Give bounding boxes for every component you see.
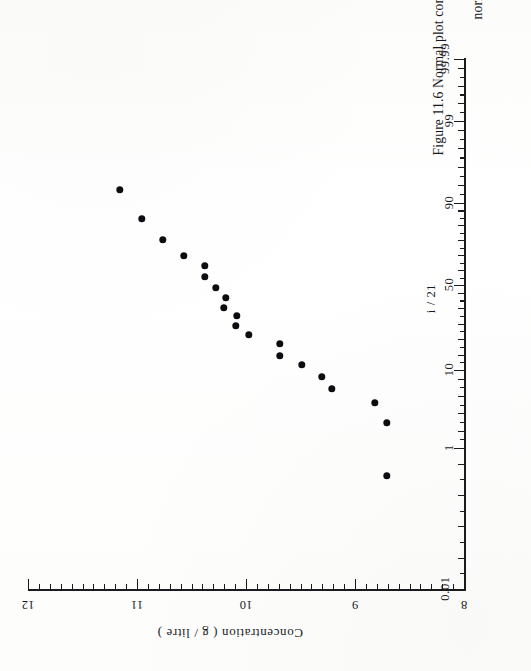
probability-minor-tick (460, 331, 465, 332)
concentration-major-tick (246, 579, 247, 589)
concentration-minor-tick (61, 584, 62, 589)
probability-minor-tick (458, 413, 465, 414)
probability-minor-tick (458, 355, 465, 356)
concentration-minor-tick (268, 584, 269, 589)
probability-tick-label-10: 10 (442, 353, 457, 387)
data-point (116, 186, 123, 193)
concentration-minor-tick (159, 584, 160, 589)
concentration-minor-tick (170, 584, 171, 589)
probability-minor-tick (460, 405, 465, 406)
data-point (159, 236, 166, 243)
concentration-minor-tick (83, 584, 84, 589)
data-point (232, 322, 239, 329)
concentration-minor-tick (311, 584, 312, 589)
data-point (298, 361, 305, 368)
concentration-major-tick (137, 579, 138, 589)
concentration-minor-tick (148, 584, 149, 589)
data-point (222, 294, 229, 301)
concentration-minor-tick (279, 584, 280, 589)
probability-axis-annotation: i / 21 (424, 282, 439, 316)
probability-minor-tick (458, 464, 465, 465)
probability-minor-tick (458, 255, 465, 256)
probability-minor-tick (460, 422, 465, 423)
concentration-minor-tick (192, 584, 193, 589)
concentration-minor-tick (377, 584, 378, 589)
figure-caption: Figure 11.6 Normal plot concentrations (… (429, 0, 471, 160)
concentration-tick-label-12: 12 (19, 597, 37, 612)
data-point (383, 472, 390, 479)
data-point (328, 385, 335, 392)
data-point (276, 352, 283, 359)
probability-minor-tick (460, 479, 465, 480)
data-point (212, 284, 219, 291)
concentration-major-tick (355, 579, 356, 589)
concentration-minor-tick (181, 584, 182, 589)
concentration-minor-tick (399, 584, 400, 589)
probability-minor-tick (458, 185, 465, 186)
concentration-minor-tick (50, 584, 51, 589)
probability-minor-tick (458, 339, 465, 340)
concentration-major-tick (464, 579, 465, 589)
probability-minor-tick (460, 233, 465, 234)
probability-minor-tick (458, 167, 465, 168)
concentration-minor-tick (344, 584, 345, 589)
data-point (233, 312, 240, 319)
probability-minor-tick (460, 263, 465, 264)
concentration-tick-label-8: 8 (455, 597, 473, 612)
probability-tick-label-50: 50 (442, 268, 457, 302)
probability-minor-tick (460, 176, 465, 177)
concentration-minor-tick (213, 584, 214, 589)
concentration-minor-tick (322, 584, 323, 589)
data-point (276, 340, 283, 347)
data-point (245, 331, 252, 338)
concentration-minor-tick (72, 584, 73, 589)
concentration-minor-tick (115, 584, 116, 589)
concentration-axis-line (28, 589, 466, 591)
probability-minor-tick (458, 526, 465, 527)
probability-minor-tick (458, 210, 465, 211)
probability-minor-tick (458, 308, 465, 309)
concentration-minor-tick (420, 584, 421, 589)
probability-major-tick (454, 589, 464, 590)
probability-minor-tick (460, 248, 465, 249)
probability-minor-tick (460, 300, 465, 301)
concentration-axis-title: Concentration ( g / litre ) (90, 625, 370, 641)
data-point (318, 373, 325, 380)
concentration-tick-label-10: 10 (237, 597, 255, 612)
probability-tick-label-1: 1 (442, 431, 457, 465)
concentration-minor-tick (104, 584, 105, 589)
probability-minor-tick (458, 324, 465, 325)
figure-page: 12111098 0.0111050909999.99 i / 21 Conce… (0, 0, 531, 671)
data-point (201, 273, 208, 280)
concentration-minor-tick (126, 584, 127, 589)
probability-minor-tick (460, 573, 465, 574)
probability-minor-tick (460, 439, 465, 440)
concentration-minor-tick (290, 584, 291, 589)
probability-minor-tick (460, 194, 465, 195)
concentration-minor-tick (388, 584, 389, 589)
data-point (220, 304, 227, 311)
concentration-minor-tick (235, 584, 236, 589)
probability-tick-label-90: 90 (442, 186, 457, 220)
probability-minor-tick (460, 316, 465, 317)
concentration-minor-tick (366, 584, 367, 589)
concentration-tick-label-9: 9 (346, 597, 364, 612)
concentration-minor-tick (301, 584, 302, 589)
concentration-minor-tick (333, 584, 334, 589)
concentration-minor-tick (202, 584, 203, 589)
concentration-minor-tick (39, 584, 40, 589)
probability-minor-tick (458, 379, 465, 380)
concentration-tick-label-11: 11 (128, 597, 146, 612)
probability-minor-tick (458, 495, 465, 496)
probability-minor-tick (458, 293, 465, 294)
probability-minor-tick (460, 511, 465, 512)
probability-minor-tick (458, 396, 465, 397)
concentration-major-tick (28, 579, 29, 589)
data-point (138, 215, 145, 222)
probability-minor-tick (458, 431, 465, 432)
probability-tick-label-0-01: 0.01 (438, 572, 453, 606)
probability-minor-tick (458, 270, 465, 271)
probability-minor-tick (460, 278, 465, 279)
data-point (180, 252, 187, 259)
concentration-minor-tick (93, 584, 94, 589)
